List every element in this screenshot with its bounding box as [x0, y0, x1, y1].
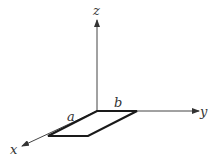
- y-axis-label: y: [199, 104, 208, 119]
- rectangle-ab: [48, 111, 137, 136]
- x-axis-label: x: [10, 142, 18, 157]
- side-a-label: a: [67, 109, 75, 124]
- z-axis-label: z: [92, 3, 100, 18]
- side-b-label: b: [114, 95, 122, 110]
- coordinate-diagram: z y x a b: [0, 0, 219, 165]
